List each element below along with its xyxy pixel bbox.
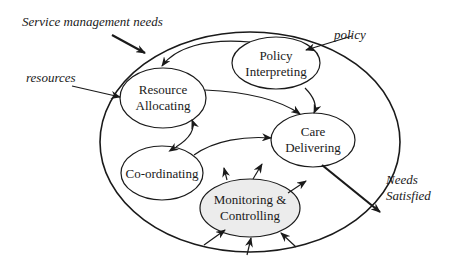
monitor-label-1: Monitoring & (214, 192, 287, 207)
arrow-resources (72, 86, 120, 97)
loop-arrow (162, 41, 250, 66)
process-policy-interpreting (232, 37, 320, 89)
policy-label-1: Policy (259, 48, 293, 63)
resource-label-1: Resource (139, 82, 188, 97)
monitor-in-3 (281, 233, 296, 247)
monitor-out-3 (288, 181, 306, 193)
input-service-needs-label: Service management needs (22, 14, 163, 29)
arrow-needs-satisfied (322, 165, 380, 212)
output-needs-label-1: Needs (385, 172, 418, 187)
service-management-diagram: Policy Interpreting Resource Allocating … (0, 0, 454, 277)
care-label-2: Delivering (285, 140, 341, 155)
arrow-coord-to-care (194, 138, 271, 155)
arrow-policy-to-care (305, 88, 315, 113)
care-label-1: Care (301, 124, 326, 139)
monitor-out-1 (224, 168, 227, 180)
monitor-label-2: Controlling (220, 208, 280, 223)
monitor-in-1 (204, 230, 225, 245)
resource-label-2: Allocating (136, 98, 191, 113)
policy-label-2: Interpreting (245, 64, 307, 79)
arrow-resource-to-care (205, 90, 300, 114)
monitor-out-2 (253, 164, 262, 179)
output-needs-label-2: Satisfied (386, 188, 431, 203)
input-resources-label: resources (26, 70, 76, 85)
coord-label: Co-ordinating (126, 166, 199, 181)
arrow-service-needs (112, 35, 145, 53)
